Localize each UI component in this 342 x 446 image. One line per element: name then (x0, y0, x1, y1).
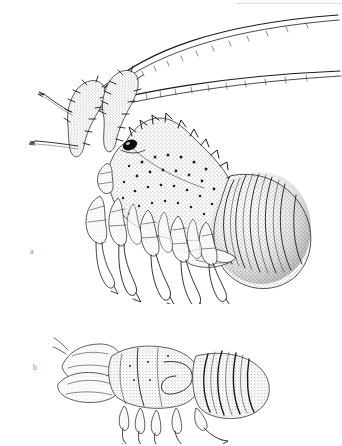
running-head: LOBSTERS (168, 0, 211, 4)
antennule-upper-left (38, 92, 72, 115)
abdomen (211, 172, 311, 289)
antenna-upper (104, 15, 339, 93)
carapace-b (109, 346, 201, 408)
figure-page: LOBSTERS (0, 0, 342, 446)
figure-label-b: b (33, 363, 37, 372)
page-header: LOBSTERS (0, 0, 342, 9)
figure-label-a: a (30, 247, 34, 256)
figure-b-slipper-lobster (52, 322, 282, 444)
mouthparts (97, 164, 113, 194)
figure-a-spiny-lobster (8, 14, 342, 304)
header-rule (236, 3, 342, 4)
abdomen-b (193, 351, 270, 419)
